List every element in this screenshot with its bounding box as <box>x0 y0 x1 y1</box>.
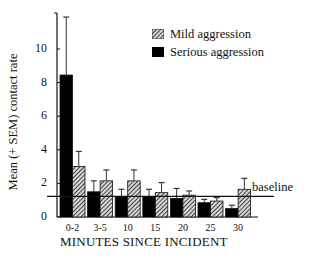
bar-mild <box>128 181 141 217</box>
y-tick-label: 8 <box>27 75 47 90</box>
y-tick-label: 6 <box>27 108 47 123</box>
bar-mild <box>211 201 224 217</box>
bar-chart: Mean (+ SEM) contact rate 0246810 0-23-5… <box>0 0 312 258</box>
x-tick-label: 20 <box>178 222 188 233</box>
bar-serious <box>170 199 183 217</box>
x-tick-label: 10 <box>123 222 133 233</box>
x-tick-label: 15 <box>150 222 160 233</box>
bar-serious <box>226 209 239 217</box>
bar-group <box>198 198 223 217</box>
x-tick-label: 0-2 <box>66 222 79 233</box>
bar-mild <box>73 167 86 217</box>
legend-item-serious: Serious aggression <box>152 43 264 61</box>
legend-item-mild: Mild aggression <box>152 25 264 43</box>
bar-group <box>88 170 113 217</box>
x-axis-label: MINUTES SINCE INCIDENT <box>60 234 228 250</box>
y-tick-label: 10 <box>27 41 47 56</box>
bar-mild <box>238 189 251 217</box>
bar-serious <box>88 192 101 217</box>
bar-group <box>143 183 168 217</box>
baseline-label: baseline <box>252 180 293 195</box>
bar-group <box>115 170 140 217</box>
solid-swatch-icon <box>152 47 164 57</box>
y-tick-label: 4 <box>27 142 47 157</box>
legend: Mild aggression Serious aggression <box>152 25 264 61</box>
bar-mild <box>183 195 196 217</box>
x-tick-label: 3-5 <box>93 222 106 233</box>
bar-group <box>170 188 195 217</box>
x-tick-label: 30 <box>233 222 243 233</box>
legend-label-mild: Mild aggression <box>170 27 251 42</box>
hatched-swatch-icon <box>152 29 164 39</box>
bar-group <box>60 17 85 217</box>
bar-mild <box>100 181 113 217</box>
bar-serious <box>143 197 156 217</box>
bar-group <box>226 178 251 217</box>
y-tick-label: 2 <box>27 175 47 190</box>
y-tick-label: 0 <box>27 209 47 224</box>
bar-serious <box>115 197 128 217</box>
x-tick-label: 25 <box>206 222 216 233</box>
legend-label-serious: Serious aggression <box>170 45 264 60</box>
y-axis-label: Mean (+ SEM) contact rate <box>6 54 21 191</box>
bar-serious <box>198 203 211 217</box>
